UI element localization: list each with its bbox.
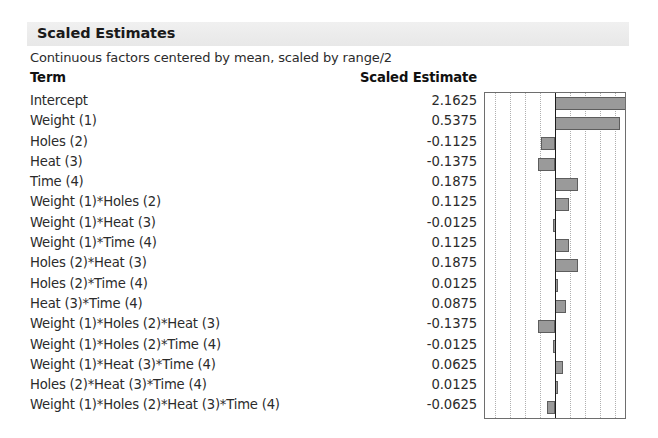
cell-term: Heat (3)*Time (4) [30,294,143,314]
cell-scaled-estimate: 0.0125 [431,375,477,395]
cell-term: Weight (1)*Holes (2)*Heat (3) [30,314,220,334]
chart-bar [555,198,569,211]
cell-scaled-estimate: 0.0875 [431,294,477,314]
cell-term: Intercept [30,91,88,111]
table-row[interactable]: Weight (1)*Heat (3)-0.0125 [30,213,477,233]
cell-term: Holes (2)*Heat (3)*Time (4) [30,375,207,395]
chart-gridline [600,93,602,418]
cell-scaled-estimate: 0.1875 [431,172,477,192]
cell-scaled-estimate: 0.1125 [431,192,477,212]
cell-term: Holes (2)*Time (4) [30,274,148,294]
cell-term: Weight (1)*Heat (3) [30,213,156,233]
table-body: Intercept2.1625Weight (1)0.5375Holes (2)… [30,91,477,416]
chart-zero-line [555,93,556,418]
table-row[interactable]: Holes (2)-0.1125 [30,132,477,152]
chart-bar [555,97,626,110]
chart-bar [555,259,578,272]
cell-term: Weight (1)*Time (4) [30,233,157,253]
chart-bar [555,239,569,252]
table-row[interactable]: Intercept2.1625 [30,91,477,111]
chart-gridline [495,93,497,418]
column-header-term: Term [30,70,66,85]
cell-scaled-estimate: 0.1125 [431,233,477,253]
panel-title-bar[interactable]: Scaled Estimates [27,22,629,46]
cell-scaled-estimate: -0.0625 [427,395,477,415]
cell-term: Weight (1)*Holes (2)*Heat (3)*Time (4) [30,395,280,415]
cell-scaled-estimate: 2.1625 [431,91,477,111]
chart-bar [547,401,555,414]
scaled-estimates-report: Scaled Estimates Continuous factors cent… [0,0,658,438]
cell-scaled-estimate: -0.0125 [427,335,477,355]
cell-scaled-estimate: -0.1375 [427,314,477,334]
cell-term: Holes (2) [30,132,88,152]
cell-scaled-estimate: 0.1875 [431,253,477,273]
table-row[interactable]: Weight (1)*Heat (3)*Time (4)0.0625 [30,355,477,375]
chart-bar [555,361,563,374]
panel-subtitle: Continuous factors centered by mean, sca… [30,50,392,65]
chart-bar [555,117,620,130]
chart-gridline [615,93,617,418]
chart-gridline [585,93,587,418]
chart-bar [541,137,555,150]
table-row[interactable]: Holes (2)*Heat (3)0.1875 [30,253,477,273]
chart-bar [555,178,578,191]
scaled-estimates-bar-chart [484,92,626,419]
cell-term: Time (4) [30,172,84,192]
cell-scaled-estimate: -0.1375 [427,152,477,172]
cell-term: Holes (2)*Heat (3) [30,253,147,273]
table-row[interactable]: Weight (1)*Holes (2)0.1125 [30,192,477,212]
chart-bar [555,300,566,313]
table-row[interactable]: Time (4)0.1875 [30,172,477,192]
table-row[interactable]: Weight (1)*Holes (2)*Heat (3)-0.1375 [30,314,477,334]
cell-scaled-estimate: -0.1125 [427,132,477,152]
cell-scaled-estimate: 0.0625 [431,355,477,375]
table-row[interactable]: Heat (3)-0.1375 [30,152,477,172]
table-row[interactable]: Weight (1)*Time (4)0.1125 [30,233,477,253]
chart-bar [538,158,555,171]
cell-term: Weight (1)*Holes (2) [30,192,161,212]
chart-gridline [510,93,512,418]
cell-term: Weight (1)*Holes (2)*Time (4) [30,335,221,355]
table-row[interactable]: Weight (1)*Holes (2)*Time (4)-0.0125 [30,335,477,355]
cell-scaled-estimate: 0.5375 [431,111,477,131]
cell-term: Weight (1) [30,111,97,131]
chart-bar [538,320,555,333]
page-title: Scaled Estimates [37,25,175,41]
cell-scaled-estimate: -0.0125 [427,213,477,233]
table-row[interactable]: Heat (3)*Time (4)0.0875 [30,294,477,314]
cell-term: Heat (3) [30,152,83,172]
table-row[interactable]: Holes (2)*Heat (3)*Time (4)0.0125 [30,375,477,395]
chart-gridline [525,93,527,418]
cell-scaled-estimate: 0.0125 [431,274,477,294]
table-row[interactable]: Weight (1)0.5375 [30,111,477,131]
table-row[interactable]: Weight (1)*Holes (2)*Heat (3)*Time (4)-0… [30,395,477,415]
scaled-estimates-panel: Scaled Estimates Continuous factors cent… [27,22,629,424]
column-header-scaled-estimate: Scaled Estimate [360,70,477,85]
table-row[interactable]: Holes (2)*Time (4)0.0125 [30,274,477,294]
chart-gridline [570,93,572,418]
cell-term: Weight (1)*Heat (3)*Time (4) [30,355,216,375]
